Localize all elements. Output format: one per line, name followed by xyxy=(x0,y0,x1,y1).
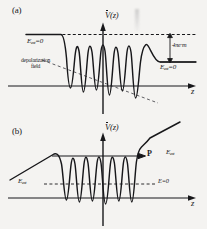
panel-b-x-axis-label: z xyxy=(191,199,194,208)
panel-a-depolarization-annotation: depolarizationfield xyxy=(21,57,50,70)
polarization-label: P xyxy=(147,150,152,158)
panel-b-tag: (b) xyxy=(12,127,22,136)
panel-b-svg xyxy=(0,114,207,229)
panel-b-right-slope-sub: ext xyxy=(170,151,174,156)
panel-a-right-level-eq: =0 xyxy=(168,63,176,71)
panel-a: (a) V(z) z Eext=0 Eext=0 4πe·m depolariz… xyxy=(0,0,207,114)
panel-b-y-axis-arg: (z) xyxy=(110,122,118,132)
panel-a-y-axis-symbol: V xyxy=(105,11,110,20)
panel-b-left-slope-label: Eext xyxy=(18,178,26,185)
y-axis-a xyxy=(100,23,106,115)
x-axis-b xyxy=(8,195,196,201)
panel-a-gap-label: 4πe·m xyxy=(172,42,186,49)
panel-a-y-axis-arg: (z) xyxy=(110,10,118,20)
panel-b-plot xyxy=(0,114,207,229)
panel-a-tag: (a) xyxy=(12,6,21,15)
figure-canvas: (a) V(z) z Eext=0 Eext=0 4πe·m depolariz… xyxy=(0,0,207,229)
panel-b-right-slope-label: Eext xyxy=(166,149,174,156)
potential-curve-b xyxy=(10,122,180,204)
panel-b-y-axis-symbol: V xyxy=(105,123,110,132)
panel-a-y-axis-label: V(z) xyxy=(105,11,118,20)
x-axis-a xyxy=(8,83,196,89)
panel-a-annotation-line2: field xyxy=(31,63,40,69)
panel-a-left-level-eq: =0 xyxy=(35,37,43,45)
panel-a-x-axis-label: z xyxy=(191,87,194,96)
panel-b-zero-line-label: E=0 xyxy=(158,178,169,185)
panel-b-left-slope-sub: ext xyxy=(22,180,26,185)
panel-b: (b) V(z) z P Eext Eext E=0 xyxy=(0,114,207,229)
panel-b-y-axis-label: V(z) xyxy=(105,123,118,132)
panel-a-right-level-label: Eext=0 xyxy=(160,64,176,71)
panel-a-annotation-line1: depolarization xyxy=(21,57,50,63)
panel-a-left-level-label: Eext=0 xyxy=(27,38,43,45)
